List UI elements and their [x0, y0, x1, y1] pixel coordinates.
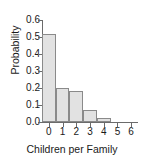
bar	[42, 34, 56, 122]
plot-area	[42, 20, 138, 122]
bar	[97, 118, 111, 122]
y-axis-tick-labels: 0.00.10.20.30.40.50.6	[14, 0, 40, 162]
y-tick-label: 0.2	[14, 83, 40, 93]
x-tick-label: 6	[121, 127, 141, 137]
y-tick-label: 0.4	[14, 49, 40, 59]
bar	[69, 91, 83, 122]
y-tick-label: 0.1	[14, 100, 40, 110]
x-axis-tick-labels: 0123456	[42, 127, 138, 141]
y-tick-mark	[38, 20, 42, 21]
x-axis-label: Children per Family	[0, 143, 144, 155]
y-tick-label: 0.3	[14, 66, 40, 76]
y-tick-label: 0.6	[14, 15, 40, 25]
bar	[56, 88, 70, 122]
y-tick-mark	[38, 122, 42, 123]
y-tick-label: 0.0	[14, 117, 40, 127]
y-tick-label: 0.5	[14, 32, 40, 42]
probability-bar-chart: Probability 0.00.10.20.30.40.50.6 012345…	[0, 0, 144, 162]
bar	[83, 110, 97, 122]
